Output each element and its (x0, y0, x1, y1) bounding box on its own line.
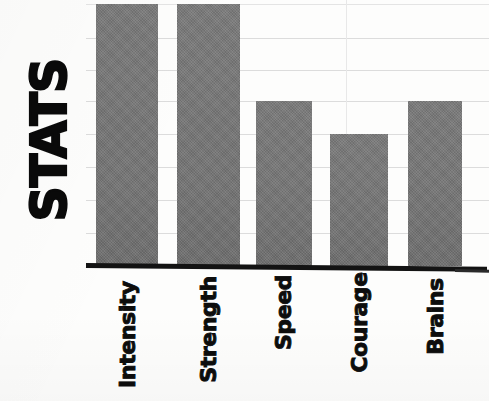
bar-courage (330, 134, 388, 266)
axis-label-brains: Brains (405, 272, 465, 401)
axis-label-text: Speed (272, 275, 297, 350)
axis-label-intensity: Intensity (97, 272, 157, 401)
bar-series (86, 0, 489, 268)
bar-strength (177, 4, 240, 266)
axis-label-strength: Strength (178, 272, 238, 401)
axis-label-text: Intensity (115, 281, 140, 388)
axis-label-text: Brains (423, 278, 448, 354)
chart-screenshot: STATS IntensityStrengthSpeedCourageBrain… (0, 0, 489, 401)
axis-label-speed: Speed (254, 272, 314, 401)
bar-speed (256, 101, 312, 266)
axis-label-text: Strength (196, 276, 221, 383)
bar-intensity (96, 4, 158, 266)
chart-title-stats: STATS (25, 72, 74, 222)
category-axis-labels: IntensityStrengthSpeedCourageBrains (86, 272, 489, 401)
plot-area (86, 0, 489, 268)
axis-label-text: Courage (347, 272, 372, 373)
bar-brains (408, 101, 462, 266)
axis-label-courage: Courage (329, 272, 389, 401)
